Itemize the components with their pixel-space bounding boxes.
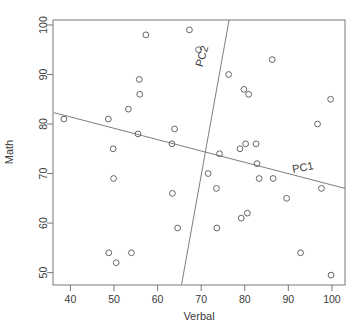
data-point [241, 86, 247, 92]
y-tick-label: 100 [37, 16, 49, 34]
data-point [214, 186, 220, 192]
x-tick-label: 90 [282, 293, 294, 305]
data-point [246, 91, 252, 97]
data-point [136, 77, 142, 83]
data-point [214, 225, 220, 231]
data-point [205, 171, 211, 177]
y-tick-label: 80 [37, 118, 49, 130]
data-point [243, 141, 249, 147]
data-point [187, 27, 193, 33]
pc-label-pc2: PC2 [193, 44, 210, 68]
data-point [125, 106, 131, 112]
x-axis-title: Verbal [183, 310, 214, 322]
data-point [106, 250, 112, 256]
data-point [111, 176, 117, 182]
scatter-plot-figure: 5060708090100 405060708090100 PC1PC2 Ver… [0, 0, 355, 331]
data-point [315, 121, 321, 127]
x-tick-label: 70 [195, 293, 207, 305]
pc-line-pc1 [54, 113, 345, 189]
data-point [137, 91, 143, 97]
data-point [175, 225, 181, 231]
data-point [61, 116, 67, 122]
data-point [110, 146, 116, 152]
x-tick-label: 40 [65, 293, 77, 305]
y-tick-label: 60 [37, 217, 49, 229]
data-point [170, 190, 176, 196]
data-point [172, 126, 178, 132]
data-point [226, 72, 232, 78]
data-point [105, 116, 111, 122]
data-point [319, 186, 325, 192]
y-axis-title: Math [3, 140, 15, 164]
x-axis-ticks: 405060708090100 [65, 285, 341, 305]
data-point [328, 96, 334, 102]
data-point [284, 195, 290, 201]
data-point [238, 215, 244, 221]
y-tick-label: 70 [37, 168, 49, 180]
data-point [129, 250, 135, 256]
data-point [269, 57, 275, 63]
plot-canvas: 5060708090100 405060708090100 PC1PC2 Ver… [0, 0, 355, 331]
data-point [328, 272, 334, 278]
x-tick-label: 80 [239, 293, 251, 305]
data-point [256, 176, 262, 182]
data-point [253, 141, 259, 147]
y-tick-label: 50 [37, 267, 49, 279]
data-point [143, 32, 149, 38]
x-tick-label: 50 [108, 293, 120, 305]
x-tick-label: 100 [323, 293, 341, 305]
data-point [298, 250, 304, 256]
data-point [237, 146, 243, 152]
principal-component-labels: PC1PC2 [193, 44, 315, 175]
pc-label-pc1: PC1 [291, 159, 314, 175]
y-tick-label: 90 [37, 68, 49, 80]
data-point [244, 210, 250, 216]
y-axis-ticks: 5060708090100 [37, 16, 53, 278]
data-point [270, 176, 276, 182]
x-tick-label: 60 [152, 293, 164, 305]
data-point [113, 260, 119, 266]
